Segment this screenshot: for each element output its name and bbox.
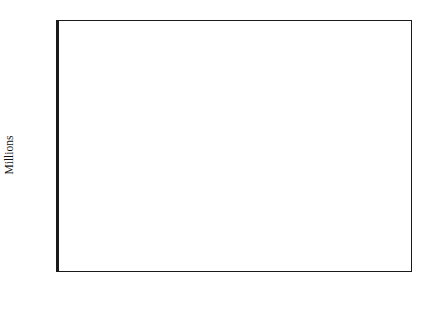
population-line-chart: Millions bbox=[0, 0, 435, 309]
plot-area bbox=[56, 20, 412, 272]
y-axis-title: Millions bbox=[3, 135, 15, 174]
series-layer bbox=[57, 21, 411, 271]
